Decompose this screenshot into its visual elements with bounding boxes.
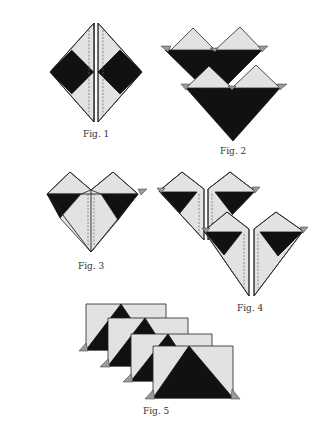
fig5-caption: Fig. 5 <box>143 406 169 416</box>
figure-5-diagram <box>0 0 319 435</box>
origami-instructions-page: Fig. 1 Fig. 2 <box>0 0 319 435</box>
fig5-unit-4 <box>145 346 240 399</box>
